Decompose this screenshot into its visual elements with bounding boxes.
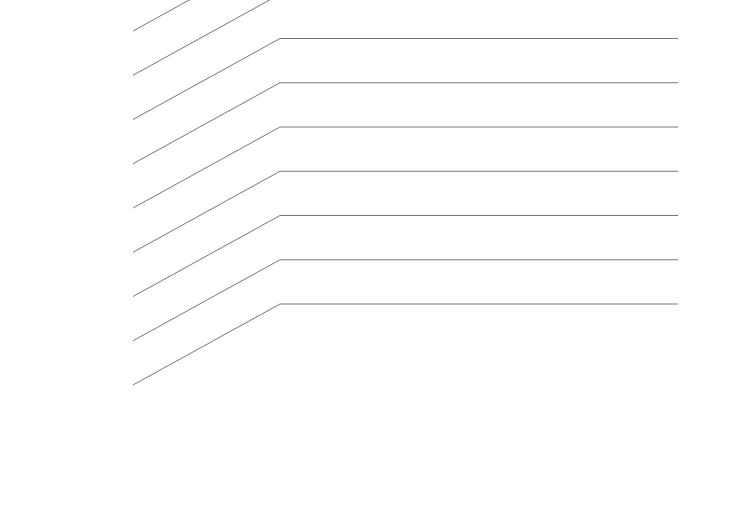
left-wall	[133, 0, 280, 385]
right-wall	[531, 0, 678, 385]
chart-root	[0, 0, 745, 521]
mortality-projection-3d-bar-chart	[0, 0, 745, 521]
